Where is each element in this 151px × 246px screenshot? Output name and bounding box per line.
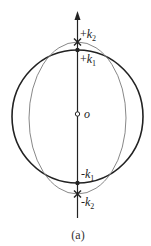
origin-marker [75, 112, 79, 116]
label-minus-k1: -k1 [81, 167, 94, 183]
label-plus-k2: +k2 [80, 27, 96, 43]
label-origin: o [84, 107, 90, 121]
label-plus-k1: +k1 [80, 52, 96, 68]
arrow-up-icon [75, 11, 81, 20]
figure-caption: (a) [71, 228, 84, 242]
label-minus-k2: -k2 [81, 195, 94, 211]
minus-k1-dot-marker [75, 181, 79, 185]
diagram-canvas: +k2 +k1 o -k1 -k2 (a) [0, 0, 151, 246]
